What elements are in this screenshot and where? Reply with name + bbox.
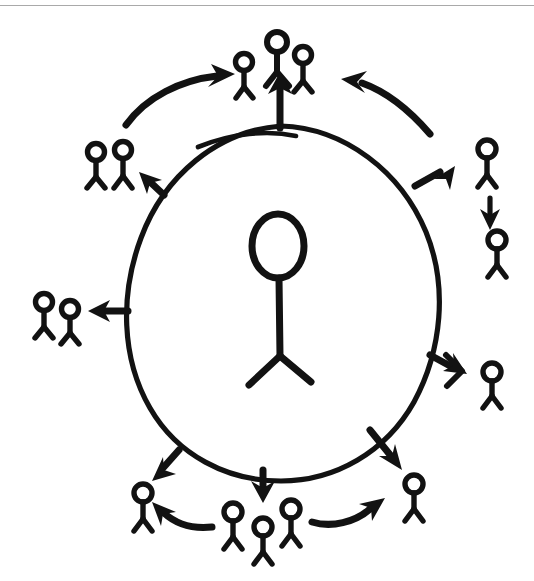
page-canvas bbox=[0, 0, 534, 581]
stick-figure bbox=[236, 54, 254, 99]
arrow-down-to-bottom-cluster bbox=[251, 470, 275, 503]
figure-group-right bbox=[483, 363, 501, 408]
arrow-down-left bbox=[152, 450, 179, 481]
stick-figure bbox=[282, 500, 300, 546]
central-stick-figure bbox=[249, 214, 311, 385]
curved-arrow-bottom-to-bottomleft bbox=[152, 502, 212, 527]
figure-group-bottom-center bbox=[224, 500, 300, 564]
figure-group-left bbox=[35, 294, 79, 345]
stick-figure bbox=[254, 518, 272, 564]
central-oval-enclosure bbox=[127, 126, 440, 481]
arrow-left bbox=[88, 300, 128, 322]
figure-group-top-left bbox=[87, 142, 132, 189]
curved-arrow-right-to-top bbox=[341, 71, 430, 134]
stick-figure bbox=[488, 231, 506, 277]
stick-figure bbox=[483, 363, 501, 408]
stick-figure bbox=[478, 140, 496, 187]
stick-figure bbox=[224, 503, 242, 549]
stick-figure bbox=[134, 484, 152, 531]
figure-group-bottom-right bbox=[405, 475, 423, 521]
arrow-upper-left bbox=[139, 172, 164, 195]
handdrawn-diagram bbox=[0, 0, 534, 581]
arrow-upper-right bbox=[415, 166, 455, 190]
stick-figure bbox=[35, 294, 53, 339]
figure-group-right-upper-second bbox=[488, 231, 506, 277]
figure-group-bottom-left bbox=[134, 484, 152, 531]
stick-figure bbox=[114, 142, 132, 189]
stick-figure bbox=[405, 475, 423, 521]
arrow-right-radial bbox=[430, 353, 467, 386]
stick-figure bbox=[87, 144, 105, 189]
stick-figure bbox=[294, 47, 312, 93]
stick-figure bbox=[61, 301, 79, 345]
curved-arrow-topleft-to-top bbox=[126, 64, 235, 125]
figure-group-right-upper bbox=[478, 140, 496, 187]
arrow-right-chain-down bbox=[480, 198, 500, 230]
curved-arrow-bottom-to-bottomright bbox=[312, 498, 385, 524]
